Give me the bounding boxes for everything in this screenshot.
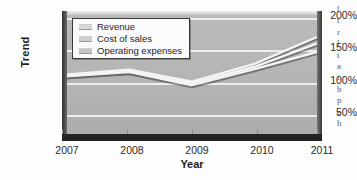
chart-legend: Revenue Cost of sales Operating expenses <box>72 18 190 59</box>
legend-label: Operating expenses <box>97 46 182 56</box>
adjacent-text-line: r <box>337 27 357 38</box>
adjacent-text-line: e <box>337 107 357 118</box>
legend-swatch-icon <box>79 36 92 42</box>
x-tick-mark-2007 <box>62 129 63 134</box>
legend-label: Revenue <box>97 22 135 32</box>
adjacent-text-line: a <box>337 61 357 72</box>
adjacent-text-line: b <box>337 84 357 95</box>
legend-swatch-icon <box>79 24 92 30</box>
plot-frame-right <box>317 11 322 141</box>
trend-line-chart-figure: Trend 200% 150% 100% 50% 2007 2008 2009 … <box>0 0 357 180</box>
x-tick-label-2008: 2008 <box>112 144 152 156</box>
legend-label: Cost of sales <box>97 34 152 44</box>
adjacent-text-line: t <box>337 72 357 83</box>
legend-item-operating-expenses: Operating expenses <box>79 45 189 57</box>
x-tick-mark-2011 <box>317 129 318 134</box>
adjacent-text-line: l <box>337 38 357 49</box>
adjacent-text-line: p <box>337 95 357 106</box>
y-axis-title: Trend <box>19 17 31 87</box>
legend-item-cost-of-sales: Cost of sales <box>79 33 189 45</box>
adjacent-text-line: t <box>337 15 357 26</box>
legend-swatch-icon <box>79 48 92 54</box>
x-tick-label-2007: 2007 <box>47 144 87 156</box>
x-tick-label-2011: 2011 <box>302 144 342 156</box>
adjacent-text-line: l <box>337 4 357 15</box>
adjacent-text-line: h <box>337 118 357 129</box>
adjacent-text-line: t <box>337 50 357 61</box>
legend-item-revenue: Revenue <box>79 21 189 33</box>
x-tick-mark-2010 <box>257 129 258 134</box>
x-tick-label-2009: 2009 <box>177 144 217 156</box>
adjacent-page-text: ltrltatbpeh <box>337 0 357 180</box>
plot-frame-bottom <box>62 134 322 141</box>
x-tick-mark-2008 <box>127 129 128 134</box>
x-tick-mark-2009 <box>192 129 193 134</box>
x-tick-label-2010: 2010 <box>242 144 282 156</box>
x-axis-title: Year <box>62 158 322 170</box>
